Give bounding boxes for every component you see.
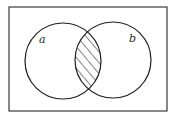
set-a-label: a xyxy=(39,33,46,46)
venn-diagram: a b xyxy=(0,0,172,116)
set-b-label: b xyxy=(129,32,136,45)
